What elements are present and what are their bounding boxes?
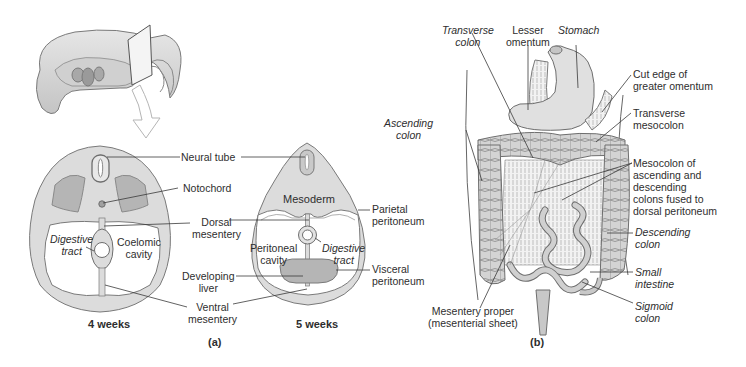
label-sigmoid-colon: Sigmoid colon [635,300,673,324]
label-coelomic-cavity: Coelomic cavity [117,236,161,260]
label-developing-liver: Developing liver [182,270,235,294]
section-4-weeks [30,146,171,312]
label-cut-edge-greater-omentum: Cut edge of greater omentum [633,68,713,92]
section-5-weeks [252,143,365,305]
label-mesentery-proper: Mesentery proper (mesenterial sheet) [428,305,518,329]
label-visceral-peritoneum: Visceral peritoneum [372,263,425,287]
label-digestive-tract-4wk: Digestive tract [50,233,93,257]
label-notochord: Notochord [183,182,231,194]
label-transverse-mesocolon: Transverse mesocolon [633,107,685,131]
caption-a: (a) [208,336,221,348]
label-neural-tube-4wk: Neural tube [181,151,235,163]
label-mesocolon-fused: Mesocolon of ascending and descending co… [633,157,717,217]
label-peritoneal-cavity: Peritoneal cavity [250,242,297,266]
caption-b: (b) [530,336,544,348]
label-digestive-tract-5wk: Digestive tract [322,242,365,266]
label-lesser-omentum: Lesser omentum [506,24,550,48]
embryo-illustration [36,25,181,138]
label-descending-colon: Descending colon [635,226,690,250]
label-transverse-colon: Transverse colon [442,24,494,48]
label-small-intestine: Small intestine [635,266,674,290]
label-stomach: Stomach [558,24,599,36]
label-mesoderm: Mesoderm [283,193,335,205]
label-parietal-peritoneum: Parietal peritoneum [372,203,425,227]
label-ventral-mesentery: Ventral mesentery [188,301,237,325]
title-4-weeks: 4 weeks [88,318,130,330]
label-ascending-colon: Ascending colon [384,117,433,141]
title-5-weeks: 5 weeks [296,318,338,330]
down-arrow-icon [132,85,160,138]
label-dorsal-mesentery: Dorsal mesentery [192,216,241,240]
